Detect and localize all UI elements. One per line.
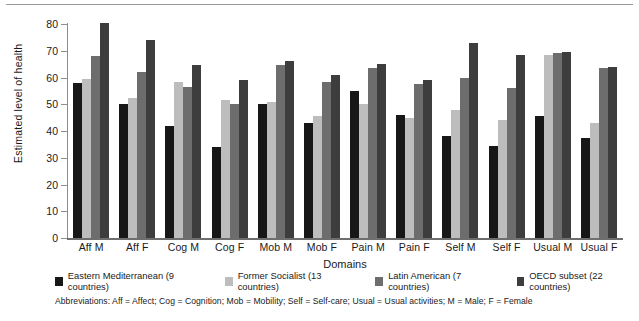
y-axis-tick-label: 40 [0,126,58,137]
bar [489,146,498,238]
x-axis-tick-labels: Aff MAff FCog MCog FMob MMob FPain MPain… [68,241,622,257]
bar [350,91,359,238]
bar-group [68,24,114,238]
legend-swatch-icon [375,277,383,286]
y-axis-tick [61,158,67,159]
legend-item: Latin American (7 countries) [375,270,488,292]
legend-item: OECD subset (22 countries) [517,270,631,292]
bar-group [114,24,160,238]
legend-label: Latin American (7 countries) [388,270,488,292]
y-axis-tick-label: 50 [0,99,58,110]
top-rule [6,4,633,5]
bar [313,116,322,238]
bar [469,43,478,238]
x-axis-tick-label: Usual M [530,241,576,257]
bar [460,78,469,239]
bar [535,116,544,238]
bar [304,123,313,238]
x-axis-line [67,238,623,240]
legend-swatch-icon [55,277,63,286]
y-axis-tick [61,238,67,239]
x-axis-tick-label: Aff M [68,241,114,257]
bar [165,126,174,238]
bar [73,83,82,238]
bar [322,82,331,238]
y-axis-tick-label: 30 [0,153,58,164]
y-axis-tick [61,211,67,212]
bar-groups [68,24,622,238]
legend-label: Former Socialist (13 countries) [238,270,348,292]
y-axis-tick [61,131,67,132]
bar-group [391,24,437,238]
legend-swatch-icon [225,277,233,286]
y-axis-tick-label: 60 [0,73,58,84]
bar [581,138,590,238]
legend-item: Eastern Mediterranean (9 countries) [55,270,197,292]
y-axis-tick [61,24,67,25]
footnote-abbreviations: Abbreviations: Aff = Affect; Cog = Cogni… [55,296,630,306]
bar [599,68,608,238]
bar [507,88,516,238]
legend-label: Eastern Mediterranean (9 countries) [68,270,197,292]
bar [590,123,599,238]
chart-legend: Eastern Mediterranean (9 countries)Forme… [55,274,630,288]
y-axis-tick [61,51,67,52]
bar [405,118,414,238]
x-axis-title: Domains [68,258,622,270]
bar [276,65,285,238]
bar [192,65,201,238]
bar [258,104,267,238]
bar [212,147,221,238]
bar [267,102,276,238]
bar [544,55,553,238]
bar-group [484,24,530,238]
legend-item: Former Socialist (13 countries) [225,270,348,292]
bar [331,75,340,238]
y-axis-tick [61,78,67,79]
bar [562,52,571,238]
legend-label: OECD subset (22 countries) [529,270,630,292]
x-axis-tick-label: Usual F [576,241,622,257]
x-axis-tick-label: Pain M [345,241,391,257]
bar-group [253,24,299,238]
bar [119,104,128,238]
bar [137,72,146,238]
bar-group [207,24,253,238]
bar [516,55,525,238]
bar-group [299,24,345,238]
x-axis-tick-label: Pain F [391,241,437,257]
y-axis-tick-label: 20 [0,180,58,191]
bar [377,64,386,238]
figure-chart: 80706050403020100 Estimated level of hea… [0,0,639,321]
bar [414,84,423,238]
bar [239,80,248,238]
bar [100,23,109,238]
x-axis-tick-label: Cog F [207,241,253,257]
bar [359,104,368,238]
bar [91,56,100,238]
x-axis-tick-label: Mob F [299,241,345,257]
x-axis-tick-label: Self M [437,241,483,257]
bar [553,53,562,238]
bar-group [345,24,391,238]
bar [183,87,192,238]
legend-swatch-icon [517,277,525,286]
bar [423,80,432,238]
bar-group [160,24,206,238]
bar [230,104,239,238]
bar [146,40,155,238]
bar [451,110,460,238]
x-axis-tick-label: Mob M [253,241,299,257]
bar [285,61,294,238]
bar-group [437,24,483,238]
bar-group [530,24,576,238]
y-axis-title: Estimated level of health [0,0,10,48]
bar [396,115,405,238]
y-axis-tick [61,104,67,105]
bar [368,68,377,238]
bar [608,67,617,238]
bar [498,120,507,238]
bar [174,82,183,238]
x-axis-tick-label: Cog M [160,241,206,257]
y-axis-tick-label: 0 [0,233,58,244]
